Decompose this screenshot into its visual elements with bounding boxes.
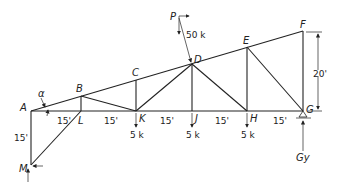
node-label-G: G: [306, 104, 314, 115]
node-label-C: C: [132, 67, 139, 78]
node-label-E: E: [243, 35, 250, 46]
angle-alpha-label: α: [38, 88, 45, 99]
load-H-value: 5 k: [241, 130, 256, 140]
dim-AM: 15': [14, 133, 28, 143]
member-EG: [247, 47, 303, 111]
node-label-F: F: [300, 19, 306, 30]
panel-dim-5: 15': [273, 116, 287, 126]
load-P-value: 50 k: [186, 30, 206, 40]
node-label-L: L: [78, 115, 84, 126]
alpha-arrow-icon: [41, 98, 45, 107]
node-label-J: J: [193, 113, 198, 124]
panel-dim-2: 15': [104, 116, 118, 126]
node-label-K: K: [139, 113, 147, 124]
member-LM: [31, 111, 81, 165]
node-label-M: M: [19, 163, 28, 174]
panel-dim-4: 15': [215, 116, 229, 126]
load-J-value: 5 k: [186, 130, 201, 140]
panel-dim-3: 15': [160, 116, 174, 126]
reaction-Gy-label: Gy: [296, 152, 311, 163]
node-label-H: H: [250, 113, 258, 124]
truss-diagram: A B C D E F G H J K L M α P 50 k 5 k 5 k…: [0, 0, 344, 187]
member-BK: [81, 96, 136, 111]
node-label-A: A: [19, 102, 27, 113]
load-P-label: P: [170, 11, 177, 22]
top-chord: [31, 31, 303, 111]
load-arrow-P: [179, 18, 191, 62]
height-dim: 20': [313, 69, 327, 79]
member-KD: [136, 64, 192, 111]
node-label-B: B: [76, 83, 83, 94]
member-DH: [192, 64, 247, 111]
panel-dim-1: 15': [57, 116, 71, 126]
node-label-D: D: [194, 54, 202, 65]
load-K-value: 5 k: [130, 130, 145, 140]
